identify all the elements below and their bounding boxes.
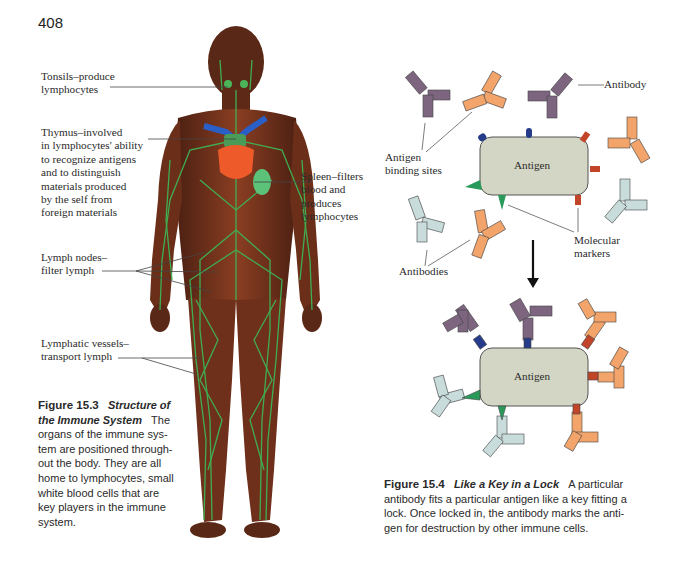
label-antibodies: Antibodies <box>399 265 448 278</box>
label-lymphatic-vessels: Lymphatic vessels– transport lymph <box>41 337 129 364</box>
figure-title: Structure of <box>108 399 170 411</box>
label-antigen-binding-sites: Antigen binding sites <box>385 151 442 178</box>
figure-15-4-caption: Figure 15.4 Like a Key in a Lock A parti… <box>384 477 684 535</box>
label-antigen-bottom: Antigen <box>514 370 550 383</box>
label-lymph-nodes: Lymph nodes– filter lymph <box>41 251 107 278</box>
label-spleen: Spleen–filters blood and produces lympho… <box>301 170 363 224</box>
label-antibody: Antibody <box>604 78 646 91</box>
figure-number: Figure 15.3 <box>38 399 99 411</box>
label-molecular-markers: Molecular markers <box>574 234 620 261</box>
label-thymus: Thymus–involved in lymphocytes' ability … <box>41 126 143 220</box>
figure-15-3-caption: Figure 15.3 Structure of the Immune Syst… <box>38 398 188 529</box>
figure-number: Figure 15.4 <box>384 478 445 490</box>
figure-title: Like a Key in a Lock <box>454 478 559 490</box>
label-antigen-top: Antigen <box>514 159 550 172</box>
label-tonsils: Tonsils–produce lymphocytes <box>41 70 115 97</box>
heart <box>218 145 254 179</box>
down-arrow <box>527 240 539 288</box>
